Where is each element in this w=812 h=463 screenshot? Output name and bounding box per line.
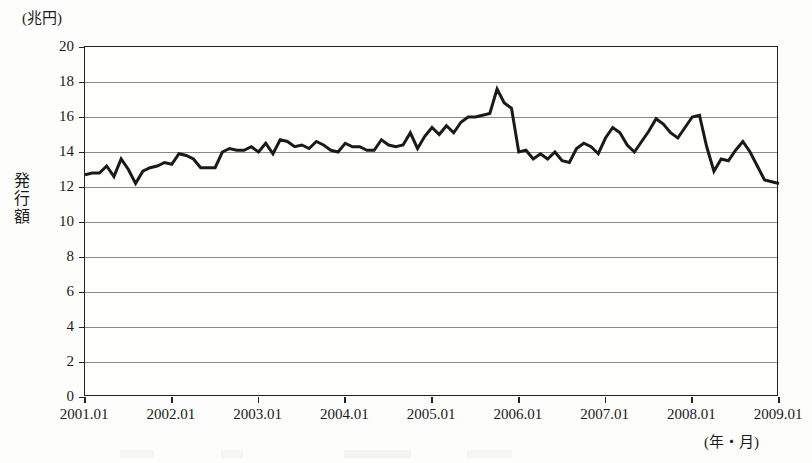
y-tick-label-2: 2 <box>30 353 74 370</box>
y-tick-label-6: 6 <box>30 283 74 300</box>
x-tickmark-2001.01 <box>84 397 86 403</box>
x-tickmark-2009.01 <box>778 397 780 403</box>
x-tickmark-2004.01 <box>344 397 346 403</box>
y-tick-label-20: 20 <box>30 38 74 55</box>
y-axis-title-char-1: 発 <box>12 172 32 190</box>
x-tick-label-2003.01: 2003.01 <box>233 406 282 423</box>
y-tick-label-14: 14 <box>30 143 74 160</box>
x-tickmark-2005.01 <box>431 397 433 403</box>
x-tickmark-2006.01 <box>518 397 520 403</box>
y-tick-label-16: 16 <box>30 108 74 125</box>
x-tick-label-2004.01: 2004.01 <box>320 406 369 423</box>
y-tick-label-8: 8 <box>30 248 74 265</box>
plot-area <box>84 46 778 396</box>
chart-figure: (兆円) 発 行 額 20181614121086420 2001.012002… <box>0 0 812 463</box>
x-axis-unit-label: (年・月) <box>704 430 759 451</box>
x-tick-label-2005.01: 2005.01 <box>407 406 456 423</box>
x-tick-label-2002.01: 2002.01 <box>146 406 195 423</box>
x-tickmark-2008.01 <box>691 397 693 403</box>
y-axis-title: 発 行 額 <box>12 172 32 226</box>
y-tick-label-18: 18 <box>30 73 74 90</box>
x-tickmark-2003.01 <box>258 397 260 403</box>
data-line-series <box>85 47 779 397</box>
x-tick-label-2006.01: 2006.01 <box>493 406 542 423</box>
y-tick-label-4: 4 <box>30 318 74 335</box>
y-axis-title-char-2: 行 <box>12 190 32 208</box>
y-tick-label-10: 10 <box>30 213 74 230</box>
x-tick-label-2008.01: 2008.01 <box>667 406 716 423</box>
x-tick-label-2001.01: 2001.01 <box>60 406 109 423</box>
y-axis-unit-label: (兆円) <box>22 6 62 27</box>
y-tick-label-0: 0 <box>30 388 74 405</box>
x-tick-label-2007.01: 2007.01 <box>580 406 629 423</box>
y-axis-title-char-3: 額 <box>12 208 32 226</box>
page-footer-artifact <box>120 450 680 458</box>
y-tick-label-12: 12 <box>30 178 74 195</box>
series-line-issuance <box>85 89 779 184</box>
x-tickmark-2007.01 <box>605 397 607 403</box>
x-tick-label-2009.01: 2009.01 <box>754 406 803 423</box>
x-tickmark-2002.01 <box>171 397 173 403</box>
